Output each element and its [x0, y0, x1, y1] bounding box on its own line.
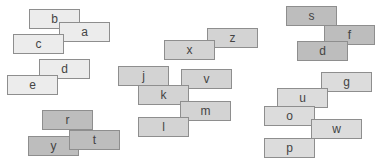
box-d: d [297, 41, 348, 61]
box-u: u [277, 88, 328, 108]
box-j: j [118, 66, 169, 86]
box-t: t [69, 130, 120, 150]
box-g: g [321, 72, 372, 92]
box-o: o [264, 106, 315, 126]
box-x: x [164, 40, 215, 60]
box-c: c [13, 34, 64, 54]
box-r: r [42, 110, 93, 130]
box-l: l [138, 117, 189, 137]
box-s: s [286, 6, 337, 26]
box-p: p [264, 138, 315, 158]
box-e: e [7, 75, 58, 95]
box-w: w [311, 119, 362, 139]
box-a: a [59, 22, 110, 42]
